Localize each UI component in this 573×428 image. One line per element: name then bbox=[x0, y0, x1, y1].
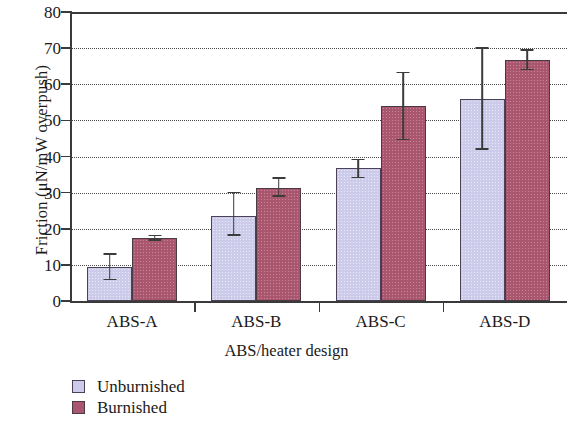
error-bar-line bbox=[357, 159, 359, 177]
error-bar-cap-upper bbox=[272, 177, 285, 179]
y-tick-30 bbox=[61, 192, 72, 194]
y-tick-label: 40 bbox=[15, 148, 61, 165]
y-tick-label: 20 bbox=[15, 220, 61, 237]
x-axis-title: ABS/heater design bbox=[0, 341, 573, 361]
legend-label-burnished: Burnished bbox=[97, 399, 167, 416]
x-category-label: ABS-D bbox=[479, 312, 530, 332]
error-bar-cap-upper bbox=[352, 159, 365, 161]
legend-label-unburnished: Unburnished bbox=[97, 378, 185, 395]
error-bar-cap-lower bbox=[352, 177, 365, 179]
error-bar-cap-lower bbox=[227, 234, 240, 236]
error-bar-cap-upper bbox=[227, 192, 240, 194]
error-bar-line bbox=[233, 193, 235, 235]
x-category-label: ABS-B bbox=[231, 312, 281, 332]
error-bar-line bbox=[109, 254, 111, 279]
error-bar-cap-upper bbox=[521, 49, 534, 51]
y-tick-80 bbox=[61, 11, 72, 13]
legend-item-unburnished: Unburnished bbox=[72, 376, 185, 397]
bar-abs-a-burnished bbox=[132, 238, 177, 301]
error-bar-line bbox=[527, 50, 529, 70]
error-bar-cap-upper bbox=[476, 47, 489, 49]
y-tick-50 bbox=[61, 120, 72, 122]
bar-abs-c-unburnished bbox=[336, 168, 381, 301]
plot-area bbox=[70, 12, 567, 303]
error-bar-cap-lower bbox=[272, 195, 285, 197]
error-bar-cap-upper bbox=[397, 72, 410, 74]
y-tick-60 bbox=[61, 83, 72, 85]
error-bar-cap-upper bbox=[148, 235, 161, 237]
error-bar-line bbox=[402, 72, 404, 139]
y-tick-10 bbox=[61, 264, 72, 266]
legend-item-burnished: Burnished bbox=[72, 397, 185, 418]
x-category-label: ABS-A bbox=[107, 312, 158, 332]
plot-top-border bbox=[70, 12, 567, 14]
y-tick-label: 0 bbox=[15, 293, 61, 310]
y-tick-label: 60 bbox=[15, 76, 61, 93]
y-tick-label: 10 bbox=[15, 256, 61, 273]
error-bar-cap-lower bbox=[476, 148, 489, 150]
y-tick-40 bbox=[61, 156, 72, 158]
error-bar-line bbox=[278, 178, 280, 196]
error-bar-line bbox=[482, 48, 484, 149]
y-tick-label: 30 bbox=[15, 184, 61, 201]
friction-bar-chart-figure: Friction (μN/mW overpush) 01020304050607… bbox=[0, 0, 573, 428]
bar-abs-b-burnished bbox=[256, 188, 301, 301]
y-tick-label: 50 bbox=[15, 112, 61, 129]
error-bar-cap-lower bbox=[103, 279, 116, 281]
legend-swatch-burnished bbox=[72, 401, 85, 414]
x-tick-1 bbox=[194, 302, 196, 312]
error-bar-cap-lower bbox=[521, 69, 534, 71]
error-bar-cap-lower bbox=[148, 239, 161, 241]
x-tick-3 bbox=[443, 302, 445, 312]
x-tick-2 bbox=[319, 302, 321, 312]
y-tick-20 bbox=[61, 228, 72, 230]
x-category-label: ABS-C bbox=[356, 312, 406, 332]
chart-legend: Unburnished Burnished bbox=[72, 376, 185, 418]
error-bar-cap-lower bbox=[397, 139, 410, 141]
gridline-70 bbox=[72, 48, 567, 49]
y-tick-label: 70 bbox=[15, 40, 61, 57]
bar-abs-d-burnished bbox=[505, 60, 550, 301]
y-tick-label: 80 bbox=[15, 4, 61, 21]
y-tick-0 bbox=[61, 300, 72, 302]
error-bar-cap-upper bbox=[103, 253, 116, 255]
legend-swatch-unburnished bbox=[72, 380, 85, 393]
gridline-60 bbox=[72, 84, 567, 85]
y-axis-line bbox=[70, 12, 72, 303]
y-tick-70 bbox=[61, 47, 72, 49]
